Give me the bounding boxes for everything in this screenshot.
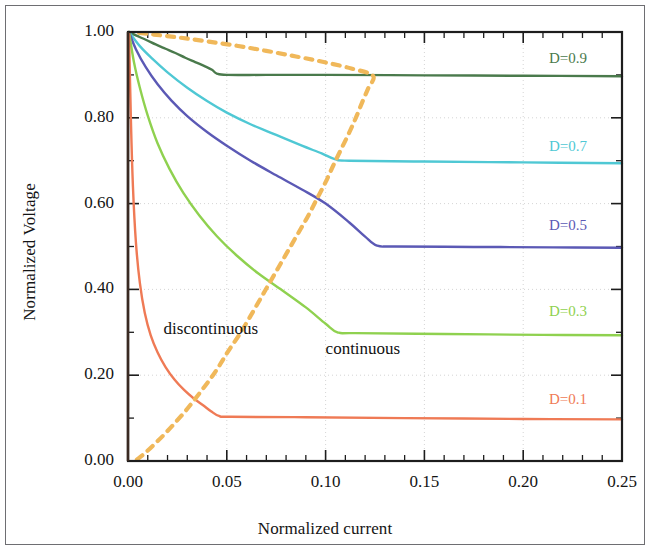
series-label-d03: D=0.3 [549, 303, 587, 320]
x-tick-label: 0.00 [93, 472, 163, 492]
y-tick-label: 0.80 [44, 107, 114, 127]
y-tick-label: 1.00 [44, 21, 114, 41]
y-tick-label: 0.40 [44, 278, 114, 298]
series-label-d05: D=0.5 [549, 217, 587, 234]
region-label-discontinuous: discontinuous [164, 319, 258, 339]
x-tick-label: 0.10 [291, 472, 361, 492]
y-axis-title: Normalized Voltage [20, 152, 40, 352]
series-label-d09: D=0.9 [549, 50, 587, 67]
boundary-curve [134, 32, 374, 459]
y-tick-label: 0.60 [44, 193, 114, 213]
series-label-d01: D=0.1 [549, 391, 587, 408]
y-tick-label: 0.00 [44, 450, 114, 470]
region-label-continuous: continuous [326, 339, 401, 359]
x-axis-title: Normalized current [0, 519, 650, 539]
x-tick-label: 0.05 [192, 472, 262, 492]
boundary-dashed-line [134, 32, 374, 459]
y-tick-label: 0.20 [44, 364, 114, 384]
figure-container: Normalized Voltage Normalized current 0.… [0, 0, 650, 552]
x-tick-label: 0.20 [488, 472, 558, 492]
x-tick-label: 0.15 [389, 472, 459, 492]
series-label-d07: D=0.7 [549, 138, 587, 155]
x-tick-label: 0.25 [587, 472, 650, 492]
